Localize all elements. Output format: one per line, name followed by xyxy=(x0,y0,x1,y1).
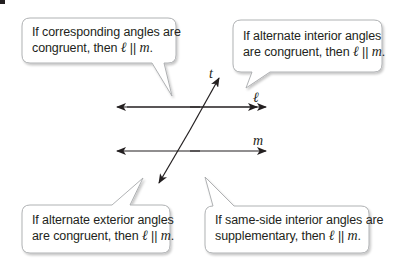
callout-same-side-interior-text: If same-side interior angles are supplem… xyxy=(215,212,383,244)
transversal-t-up xyxy=(190,78,219,130)
symbol-m: m xyxy=(161,228,171,243)
symbol-m: m xyxy=(372,44,382,59)
callout-alternate-interior-text: If alternate interior angles are congrue… xyxy=(243,28,385,60)
callout-line-2: congruent, then ℓ || m. xyxy=(32,40,181,56)
callout-line-1: If alternate interior angles xyxy=(243,28,385,44)
parallel-symbol: || xyxy=(359,45,372,59)
parallel-symbol: || xyxy=(148,229,161,243)
parallel-symbol: || xyxy=(126,41,139,55)
period: . xyxy=(171,229,174,243)
callout-corresponding-text: If corresponding angles are congruent, t… xyxy=(32,24,181,56)
label-l: ℓ xyxy=(253,90,259,106)
period: . xyxy=(358,229,361,243)
callout-line-2: supplementary, then ℓ || m. xyxy=(215,228,383,244)
callout-line-1: If same-side interior angles are xyxy=(215,212,383,228)
diagram-canvas: t ℓ m If corresponding angles are congru… xyxy=(0,0,400,266)
text: congruent, then xyxy=(32,41,121,55)
callout-line-1: If alternate exterior angles xyxy=(32,212,174,228)
period: . xyxy=(382,45,385,59)
text: supplementary, then xyxy=(215,229,329,243)
label-t: t xyxy=(209,66,213,82)
period: . xyxy=(150,41,153,55)
callout-line-1: If corresponding angles are xyxy=(32,24,181,40)
parallel-symbol: || xyxy=(335,229,348,243)
callout-line-2: are congruent, then ℓ || m. xyxy=(32,228,174,244)
transversal-t-down xyxy=(159,130,190,183)
symbol-m: m xyxy=(348,228,358,243)
text: are congruent, then xyxy=(32,229,142,243)
symbol-m: m xyxy=(140,40,150,55)
callout-alternate-exterior-text: If alternate exterior angles are congrue… xyxy=(32,212,174,244)
callout-line-2: are congruent, then ℓ || m. xyxy=(243,44,385,60)
text: are congruent, then xyxy=(243,45,353,59)
label-m: m xyxy=(253,133,263,149)
